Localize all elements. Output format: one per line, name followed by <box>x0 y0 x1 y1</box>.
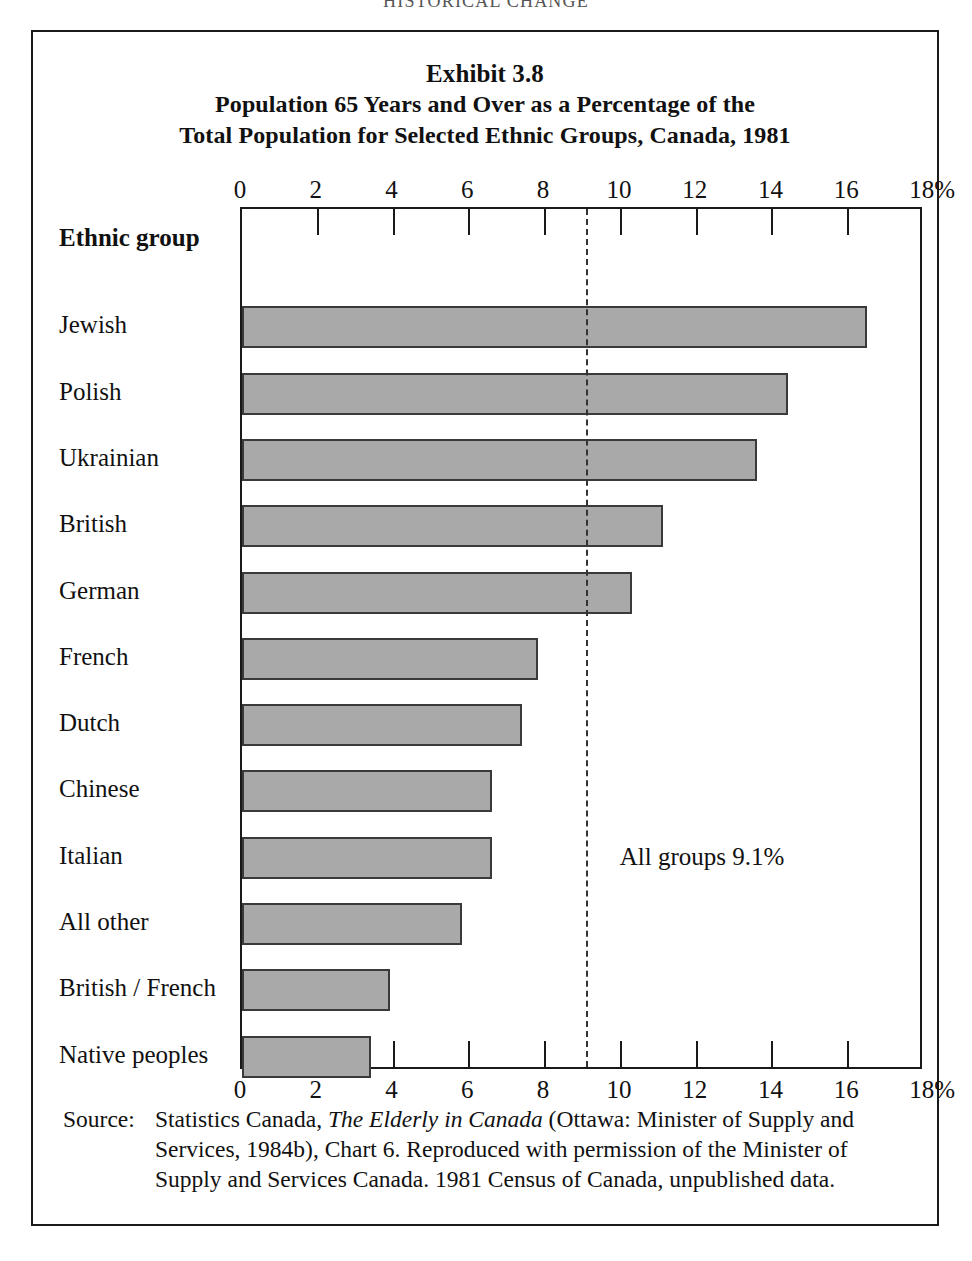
x-tick-label: 16 <box>834 175 859 205</box>
category-label: Chinese <box>59 774 239 804</box>
bar <box>242 373 788 415</box>
category-label: Native peoples <box>59 1040 239 1070</box>
x-tick-label: 12 <box>682 175 707 205</box>
bar <box>242 306 867 348</box>
x-tick-label: 2 <box>310 1075 323 1105</box>
plot-area: All groups 9.1% <box>240 207 922 1069</box>
category-label: British <box>59 509 239 539</box>
category-label: Ukrainian <box>59 443 239 473</box>
running-head: HISTORICAL CHANGE <box>0 0 972 14</box>
plot-wrap: 024681012141618% All groups 9.1% 0246810… <box>33 32 941 1228</box>
bar <box>242 770 492 812</box>
x-tick-label: 10 <box>606 1075 631 1105</box>
x-tick-label: 8 <box>537 1075 550 1105</box>
bar <box>242 439 757 481</box>
mean-reference-line <box>586 209 588 1067</box>
bar <box>242 572 632 614</box>
x-tick-label: 4 <box>385 1075 398 1105</box>
bar <box>242 903 462 945</box>
bar <box>242 638 538 680</box>
x-tick-label: 2 <box>310 175 323 205</box>
x-tick-label: 14 <box>758 1075 783 1105</box>
x-tick-label: 10 <box>606 175 631 205</box>
x-tick-label: 18% <box>909 175 955 205</box>
category-label: Polish <box>59 377 239 407</box>
category-labels-layer: Ethnic groupJewishPolishUkrainianBritish… <box>59 207 239 1069</box>
category-axis-header: Ethnic group <box>59 223 239 253</box>
x-tick-label: 0 <box>234 1075 247 1105</box>
source-label: Source: <box>63 1104 155 1134</box>
category-label: All other <box>59 907 239 937</box>
source-text-part-1: Statistics Canada, <box>155 1106 328 1132</box>
x-tick-label: 14 <box>758 175 783 205</box>
source-italic-title: The Elderly in Canada <box>328 1106 543 1132</box>
category-label: Jewish <box>59 310 239 340</box>
bar <box>242 837 492 879</box>
x-tick-label: 0 <box>234 175 247 205</box>
category-label: British / French <box>59 973 239 1003</box>
x-tick-label: 4 <box>385 175 398 205</box>
bar <box>242 1036 371 1078</box>
mean-annotation-label: All groups 9.1% <box>620 843 785 871</box>
x-tick-label: 18% <box>909 1075 955 1105</box>
x-tick-label: 12 <box>682 1075 707 1105</box>
x-tick-label: 6 <box>461 1075 474 1105</box>
x-tick-label: 8 <box>537 175 550 205</box>
category-label: Italian <box>59 841 239 871</box>
category-label: Dutch <box>59 708 239 738</box>
source-body: Statistics Canada, The Elderly in Canada… <box>155 1104 903 1194</box>
bars-layer <box>242 209 920 1067</box>
bar <box>242 969 390 1011</box>
x-tick-label: 16 <box>834 1075 859 1105</box>
category-label: French <box>59 642 239 672</box>
x-tick-label: 6 <box>461 175 474 205</box>
category-label: German <box>59 576 239 606</box>
bar <box>242 704 522 746</box>
x-axis-top-tick-labels: 024681012141618% <box>240 175 922 205</box>
source-note: Source:Statistics Canada, The Elderly in… <box>63 1104 913 1194</box>
x-axis-bottom-tick-labels: 024681012141618% <box>240 1075 922 1105</box>
running-head-text: HISTORICAL CHANGE <box>383 0 589 12</box>
figure-frame: Exhibit 3.8 Population 65 Years and Over… <box>31 30 939 1226</box>
bar <box>242 505 663 547</box>
